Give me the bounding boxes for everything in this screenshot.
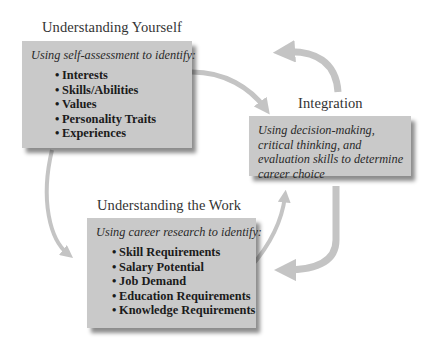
bullet-icon: • [112,303,119,318]
list-item: •Skills/Abilities [55,83,192,98]
node-title-work: Understanding the Work [97,197,241,214]
node-box-work: Using career research to identify: •Skil… [87,218,256,328]
bullet-icon: • [112,274,119,289]
arrow-integration-to-work [285,186,336,270]
node-title-yourself: Understanding Yourself [42,19,182,36]
bullet-icon: • [55,112,62,127]
bullet-icon: • [55,97,62,112]
bullet-icon: • [55,68,62,83]
node-title-integration: Integration [298,95,363,112]
list-item: •Skill Requirements [112,245,256,260]
list-item: •Interests [55,68,192,83]
list-item: •Job Demand [112,274,256,289]
bullet-icon: • [55,83,62,98]
list-item: •Knowledge Requirements [112,303,256,318]
bullet-icon: • [112,245,119,260]
list-item: •Personality Traits [55,112,192,127]
list-item: •Experiences [55,126,192,141]
item-list-yourself: •Interests •Skills/Abilities •Values •Pe… [55,68,192,141]
item-list-work: •Skill Requirements •Salary Potential •J… [112,245,256,318]
list-item: •Values [55,97,192,112]
node-lead-work: Using career research to identify: [96,225,256,240]
node-box-yourself: Using self-assessment to identify: •Inte… [22,41,192,148]
arrow-integration-to-yourself [284,52,338,92]
node-box-integration: Using decision-making, critical thinking… [249,116,411,176]
bullet-icon: • [112,260,119,275]
list-item: •Education Requirements [112,289,256,304]
node-lead-yourself: Using self-assessment to identify: [31,48,192,63]
arrow-yourself-to-work [47,150,68,254]
list-item: •Salary Potential [112,260,256,275]
node-lead-integration: Using decision-making, critical thinking… [258,123,408,181]
bullet-icon: • [55,126,62,141]
bullet-icon: • [112,289,119,304]
arrow-yourself-to-integration [192,72,265,108]
